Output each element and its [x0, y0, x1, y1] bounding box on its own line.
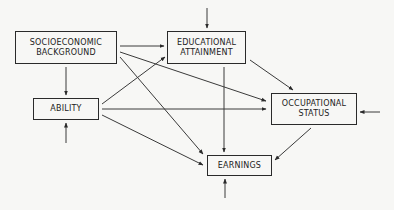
- arrow-ability-to-edu: [102, 57, 165, 104]
- arrow-ses-to-earn: [120, 57, 203, 154]
- node-label-line: EARNINGS: [218, 161, 261, 171]
- node-label-line: EDUCATIONAL: [177, 38, 236, 48]
- node-label-line: OCCUPATIONAL: [282, 99, 346, 109]
- node-ability: ABILITY: [33, 98, 99, 120]
- node-label-line: STATUS: [282, 109, 346, 119]
- arrow-occ-to-earn: [275, 128, 311, 160]
- node-earn: EARNINGS: [207, 155, 272, 176]
- node-ses: SOCIOECONOMICBACKGROUND: [15, 31, 117, 64]
- arrow-ability-to-earn: [102, 115, 203, 165]
- node-label-line: ABILITY: [50, 104, 81, 114]
- node-occ: OCCUPATIONALSTATUS: [271, 93, 357, 125]
- arrow-edu-to-occ: [250, 60, 293, 90]
- node-edu: EDUCATIONALATTAINMENT: [167, 31, 246, 64]
- node-label-line: SOCIOECONOMIC: [30, 38, 102, 48]
- node-label-line: ATTAINMENT: [177, 48, 236, 58]
- node-label-line: BACKGROUND: [30, 48, 102, 58]
